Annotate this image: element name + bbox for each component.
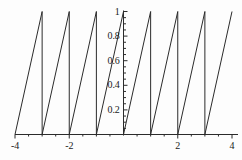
y-tick-label: 0.4 xyxy=(94,80,120,90)
sawtooth-ramp-segment xyxy=(42,12,69,135)
sawtooth-ramp-segment xyxy=(15,12,42,135)
sawtooth-ramp-segment xyxy=(124,12,151,135)
y-tick-label: 0.8 xyxy=(94,31,120,41)
sawtooth-ramp-segment xyxy=(69,12,96,135)
data-curve-group xyxy=(15,12,232,135)
x-tick-label: -2 xyxy=(57,141,81,151)
x-tick-label: 4 xyxy=(220,141,242,151)
chart-figure: -4-224 0.20.40.60.81 xyxy=(0,0,242,160)
y-tick-label: 0.6 xyxy=(94,56,120,66)
sawtooth-ramp-segment xyxy=(205,12,232,135)
sawtooth-ramp-segment xyxy=(151,12,178,135)
x-tick-label: 2 xyxy=(166,141,190,151)
sawtooth-plot xyxy=(0,0,242,160)
sawtooth-ramp-segment xyxy=(178,12,205,135)
x-tick-label: -4 xyxy=(3,141,27,151)
y-tick-label: 0.2 xyxy=(94,105,120,115)
y-tick-label: 1 xyxy=(94,7,120,17)
